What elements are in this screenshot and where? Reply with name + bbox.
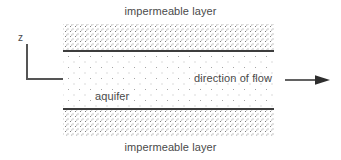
upper-impermeable-layer-fill xyxy=(63,24,274,51)
upper-aquifer-boundary-line xyxy=(63,50,274,52)
aquifer-label: aquifer xyxy=(95,90,129,103)
axis-horizontal-line xyxy=(26,78,66,80)
lower-impermeable-layer-fill xyxy=(63,109,274,136)
direction-of-flow-label: direction of flow xyxy=(194,72,272,85)
bottom-impermeable-layer-label: impermeable layer xyxy=(0,141,341,154)
arrow-right-icon xyxy=(285,74,331,86)
diagram-canvas: impermeable layer z x aquifer direction … xyxy=(0,0,341,160)
lower-aquifer-boundary-line xyxy=(63,108,274,110)
top-impermeable-layer-label: impermeable layer xyxy=(0,5,341,18)
axis-label-z: z xyxy=(18,32,23,43)
axis-vertical-line xyxy=(26,44,28,80)
